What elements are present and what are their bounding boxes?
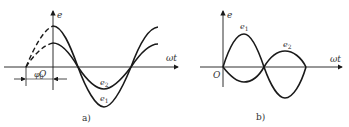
y-axis-label: e (57, 10, 62, 20)
figure-b: e ωt O e1 e2 b) (200, 10, 342, 122)
curve-e1-upper (223, 34, 264, 67)
caption-b: b) (256, 112, 265, 122)
dashed-e2 (26, 43, 53, 67)
dashed-e1 (26, 26, 53, 67)
x-axis-label: ωt (166, 53, 177, 63)
figure-a: e ωt O φ0 e2 e1 a) (4, 10, 178, 123)
diagram-canvas: e ωt O φ0 e2 e1 a) e ωt O e1 e2 b) (0, 0, 349, 127)
curve-e2-label: e2 (100, 78, 109, 88)
curve-e1-label: e1 (240, 22, 249, 32)
curve-e2-label: e2 (283, 40, 292, 50)
caption-a: a) (82, 113, 91, 123)
curve-e2-lower-first (223, 67, 264, 82)
y-axis-label: e (227, 10, 232, 20)
origin-label: O (213, 70, 221, 80)
curve-e1-lower-second (264, 67, 306, 98)
curve-e1-label: e1 (100, 94, 109, 104)
curve-e1 (53, 26, 158, 107)
x-axis-label: ωt (330, 54, 341, 64)
curve-e2-upper (264, 51, 306, 67)
